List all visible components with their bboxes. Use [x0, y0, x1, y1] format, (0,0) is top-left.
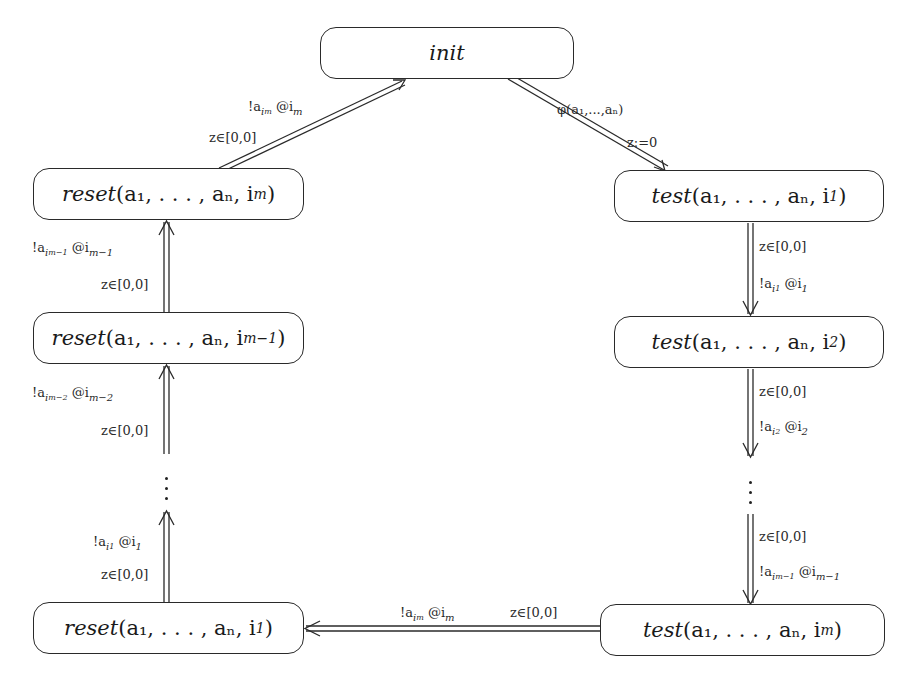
- label-action-test-i1-to-i2: !ai1 @i1: [759, 277, 808, 294]
- label-action-test-i2-to-dots: !ai2 @i2: [759, 420, 808, 437]
- edge-dots-to-test-im: [743, 514, 758, 604]
- edge-reset-im1-to-reset-im: [159, 221, 174, 312]
- ellipsis-reset-chain: [165, 477, 169, 507]
- state-init-label: init: [429, 41, 464, 65]
- state-test-i2: test(a₁, . . . , aₙ, i2): [614, 316, 884, 368]
- label-action-reset-im-to-init: !aim @im: [248, 100, 303, 117]
- state-reset-im: reset(a₁, . . . , aₙ, im): [33, 168, 304, 220]
- edge-init-to-test-i1: [508, 75, 668, 171]
- label-clock-reset-init-to-test: z:=0: [627, 136, 657, 149]
- edge-dots-to-reset-im1: [159, 365, 174, 454]
- state-init: init: [320, 27, 574, 79]
- state-test-im: test(a₁, . . . , aₙ, im): [600, 604, 885, 656]
- state-label-sub: 1: [256, 620, 265, 636]
- state-label-name: test: [652, 184, 692, 208]
- ellipsis-test-chain: [749, 481, 753, 511]
- edge-test-i1-to-test-i2: [743, 223, 758, 315]
- state-label-sub: 1: [829, 188, 838, 204]
- state-label-name: reset: [64, 616, 118, 640]
- label-guard-reset-im-to-init: z∈[0,0]: [209, 131, 256, 144]
- label-condition-init-to-test: φ(a₁,...,aₙ): [557, 103, 623, 116]
- label-guard-dots-to-test-im: z∈[0,0]: [759, 530, 806, 543]
- state-reset-im-minus-1: reset(a₁, . . . , aₙ, im−1): [33, 312, 304, 364]
- label-action-dots-to-reset-im1: !aim−2 @im−2: [32, 386, 113, 403]
- state-label-sub: 2: [829, 334, 838, 350]
- label-guard-test-im-to-reset-i1: z∈[0,0]: [510, 606, 557, 619]
- state-reset-i1: reset(a₁, . . . , aₙ, i1): [33, 602, 304, 654]
- label-action-dots-to-test-im: !aim−1 @im−1: [759, 565, 840, 582]
- state-label-sub: m: [254, 186, 267, 202]
- state-label-args: (a₁, . . . , aₙ, i: [116, 182, 254, 206]
- label-guard-reset-im1-to-reset-im: z∈[0,0]: [101, 278, 148, 291]
- label-guard-dots-to-reset-im1: z∈[0,0]: [101, 424, 148, 437]
- state-label-name: test: [643, 618, 683, 642]
- state-label-name: reset: [52, 326, 106, 350]
- state-label-sub: m: [821, 622, 834, 638]
- state-label-args: (a₁, . . . , aₙ, i: [692, 184, 830, 208]
- state-label-close: ): [265, 616, 273, 640]
- state-label-args: (a₁, . . . , aₙ, i: [106, 326, 244, 350]
- state-label-name: test: [652, 330, 692, 354]
- state-label-close: ): [277, 326, 285, 350]
- label-action-reset-i1-to-dots: !ai1 @i1: [93, 535, 142, 552]
- state-label-args: (a₁, . . . , aₙ, i: [118, 616, 256, 640]
- label-action-test-im-to-reset-i1: !aim @im: [400, 606, 455, 623]
- state-label-args: (a₁, . . . , aₙ, i: [692, 330, 830, 354]
- label-guard-test-i2-to-dots: z∈[0,0]: [759, 385, 806, 398]
- state-label-close: ): [834, 618, 842, 642]
- state-label-close: ): [838, 184, 846, 208]
- edge-reset-im-to-init: [219, 80, 405, 171]
- state-label-close: ): [838, 330, 846, 354]
- state-test-i1: test(a₁, . . . , aₙ, i1): [614, 170, 884, 222]
- state-label-name: reset: [62, 182, 116, 206]
- state-label-sub: m−1: [243, 330, 277, 346]
- edge-test-i2-to-dots: [743, 369, 758, 457]
- label-action-reset-im1-to-reset-im: !aim−1 @im−1: [32, 241, 113, 258]
- label-guard-test-i1-to-i2: z∈[0,0]: [759, 240, 806, 253]
- edge-test-im-to-reset-i1: [305, 621, 600, 636]
- state-label-args: (a₁, . . . , aₙ, i: [683, 618, 821, 642]
- state-label-close: ): [267, 182, 275, 206]
- label-guard-reset-i1-to-dots: z∈[0,0]: [101, 568, 148, 581]
- edge-reset-i1-to-dots: [159, 511, 174, 602]
